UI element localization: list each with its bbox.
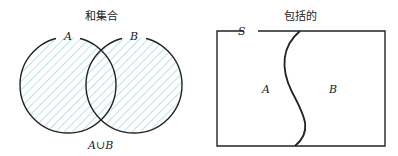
partition-curve — [284, 31, 305, 146]
diagram-canvas — [0, 0, 398, 156]
region-label-b: B — [329, 83, 337, 96]
region-label-a: A — [262, 83, 270, 96]
union-caption: A∪B — [88, 139, 113, 152]
union-venn — [20, 37, 182, 133]
inclusive-title: 包括的 — [284, 7, 317, 23]
universe-rectangle — [217, 31, 385, 146]
union-label-a: A — [64, 30, 72, 43]
union-label-b: B — [130, 30, 138, 43]
union-title: 和集合 — [85, 7, 118, 23]
inclusive-diagram — [217, 31, 385, 146]
universe-label-s: S — [238, 25, 246, 38]
